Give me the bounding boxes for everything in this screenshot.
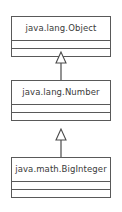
class-name-label: java.math.BigInteger — [12, 158, 110, 181]
attributes-compartment — [12, 40, 110, 48]
class-name-label: java.lang.Object — [12, 17, 110, 40]
generalization-number-to-object[interactable] — [0, 48, 122, 80]
operations-compartment — [12, 189, 110, 197]
operations-compartment — [12, 112, 110, 120]
class-name-label: java.lang.Number — [12, 81, 110, 104]
uml-class-diagram: java.lang.Object java.lang.Number java.m… — [0, 0, 122, 212]
attributes-compartment — [12, 181, 110, 189]
uml-class-biginteger[interactable]: java.math.BigInteger — [11, 157, 111, 198]
generalization-arrow-icon — [0, 125, 122, 157]
uml-class-number[interactable]: java.lang.Number — [11, 80, 111, 121]
attributes-compartment — [12, 104, 110, 112]
generalization-biginteger-to-number[interactable] — [0, 125, 122, 157]
generalization-arrow-icon — [0, 48, 122, 80]
